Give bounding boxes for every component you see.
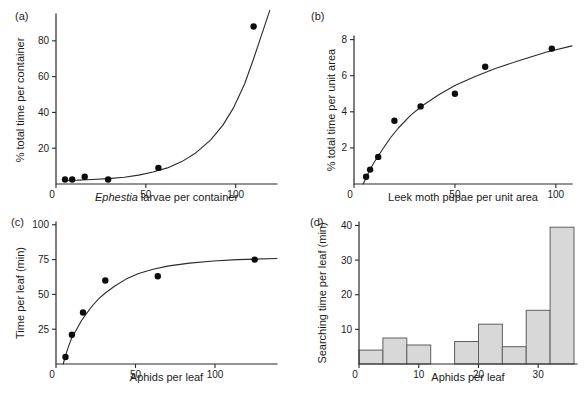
panel-c-x-axis-label: Aphids per leaf [56,371,277,383]
y-tick-label: 4 [341,106,347,117]
y-tick-label: 20 [38,143,50,154]
panel-b-y-axis-label: % total time per unit area [325,49,337,171]
data-point [252,256,258,262]
x-tick-label: 0 [352,369,358,380]
y-tick-label: 8 [341,34,347,45]
y-tick-label: 80 [38,35,50,46]
y-tick-label: 40 [341,220,353,231]
y-tick-label: 100 [32,219,49,230]
y-tick-label: 25 [38,324,50,335]
y-tick-label: 60 [38,71,50,82]
data-point [417,103,423,109]
panel-b-label: (b) [311,10,324,22]
histogram-bar [383,338,407,364]
histogram-bar [407,345,431,364]
panel-a-label: (a) [15,10,28,22]
panel-a-plot: 05010020406080 [38,10,277,200]
histogram-bar [526,310,550,364]
y-tick-label: 20 [341,289,353,300]
panel-b-axes [354,36,572,184]
data-point [80,309,86,315]
data-point [363,174,369,180]
histogram-bar [502,347,526,364]
data-point [105,176,111,182]
y-tick-label: 2 [341,142,347,153]
y-tick-label: 6 [341,70,347,81]
panel-c-plot: 050100255075100 [32,219,277,380]
panel-a-axes [56,14,277,184]
fitted-curve [63,10,270,180]
y-tick-label: 10 [341,324,353,335]
panel-b-plot: 0501002468 [341,34,572,200]
x-tick-label: 0 [347,189,353,200]
data-point [82,174,88,180]
panel-c-y-axis-label: Time per leaf (min) [14,247,26,339]
data-point [62,354,68,360]
fitted-curve [63,259,277,365]
panel-d-x-axis-label: Aphids per leaf [359,371,577,383]
histogram-bar [550,227,574,364]
panel-d-y-axis-label: Searching time per leaf (min) [316,222,328,363]
histogram-bar [455,342,479,365]
panel-c-axes [56,222,277,364]
data-point [367,166,373,172]
data-point [375,154,381,160]
data-point [155,273,161,279]
histogram-bar [359,350,383,364]
data-point [69,332,75,338]
panel-a-x-axis-label-italic: Ephestia [95,191,138,203]
data-point [155,165,161,171]
panel-d-plot: 010203010203040 [341,220,577,380]
y-tick-label: 30 [341,255,353,266]
x-tick-label: 0 [49,369,55,380]
y-tick-label: 50 [38,289,50,300]
data-point [482,63,488,69]
data-point [452,91,458,97]
data-point [549,45,555,51]
fitted-curve [363,46,572,184]
x-tick-label: 0 [49,189,55,200]
panel-a-x-axis-label-text: larvae per container [138,191,238,203]
data-point [391,118,397,124]
panel-a-x-axis-label: Ephestia larvae per container [56,191,277,203]
data-point [102,277,108,283]
y-tick-label: 40 [38,107,50,118]
data-point [62,176,68,182]
histogram-bar [479,324,503,364]
figure: 0501002040608005010024680501002550751000… [0,0,585,403]
panel-c-label: (c) [11,216,24,228]
panel-a-y-axis-label: % total time per container [14,38,26,163]
data-point [69,176,75,182]
data-point [250,23,256,29]
y-tick-label: 75 [38,254,50,265]
panel-b-x-axis-label: Leek moth pupae per unit area [354,191,572,203]
